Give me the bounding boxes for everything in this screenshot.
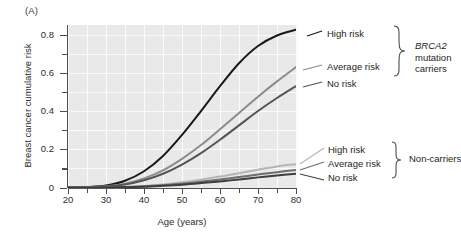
leader-carrier-none <box>303 82 322 87</box>
leader-carrier-average <box>303 65 322 70</box>
leader-noncarrier-average <box>300 162 324 170</box>
leader-carrier-high <box>307 31 322 36</box>
leader-noncarrier-none <box>300 174 324 180</box>
brace-brca2-carriers <box>394 26 405 76</box>
brace-noncarriers <box>392 142 401 178</box>
leader-noncarrier-high <box>300 148 324 164</box>
